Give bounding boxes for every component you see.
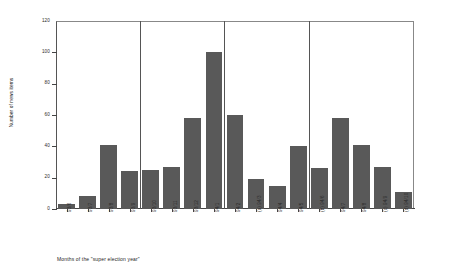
x-axis-tick-label: 94/5 — [300, 203, 305, 212]
x-axis-title: Months of the "super election year" — [57, 256, 140, 262]
y-axis-labels: 020406080100120 — [0, 0, 50, 220]
x-axis-tick-label: 93/10 — [153, 200, 158, 212]
x-axis-tick-label: (c) 94/9 — [384, 196, 389, 212]
y-axis-tick — [52, 209, 57, 210]
bars-container — [56, 21, 414, 209]
bar — [227, 115, 244, 209]
x-axis-tick-label: 93/7 — [89, 203, 94, 212]
x-axis-tick-label: 93/8 — [110, 203, 115, 212]
bar — [184, 118, 201, 209]
group-separator — [309, 21, 310, 209]
x-axis-tick-label: 94/8 — [363, 203, 368, 212]
x-axis-tick-label: 94/7 — [342, 203, 347, 212]
x-axis-tick-label: 93/9 — [132, 203, 137, 212]
y-axis-tick-label: 120 — [4, 19, 50, 24]
y-axis-tick — [52, 52, 57, 53]
y-axis-tick — [52, 146, 57, 147]
bar-chart-figure: 020406080100120 Number of news items Mon… — [0, 0, 466, 273]
y-axis-tick — [52, 84, 57, 85]
x-axis-tick-label: 93/11 — [174, 200, 179, 212]
x-axis-tick-label: (b) 94/6 — [321, 195, 326, 212]
x-axis-tick-label: (d) 94/10 — [405, 193, 410, 212]
bar — [332, 118, 349, 209]
y-axis-tick — [52, 178, 57, 179]
x-axis-tick-label: (a) 94/3 — [258, 195, 263, 212]
y-axis-tick-label: 20 — [4, 175, 50, 180]
bar — [353, 145, 370, 209]
x-axis-tick-label: 94/1 — [216, 203, 221, 212]
bar — [100, 145, 117, 209]
y-axis-title: Number of news items — [9, 48, 14, 158]
bar — [206, 52, 223, 209]
x-axis-tick-label: 94/2 — [237, 203, 242, 212]
group-separator — [224, 21, 225, 209]
x-axis-tick-label: 94/4 — [279, 203, 284, 212]
y-axis-tick — [52, 115, 57, 116]
x-axis-tick-label: 93/6 — [68, 203, 73, 212]
y-axis-tick-label: 0 — [4, 207, 50, 212]
x-axis-tick-label: 93/12 — [195, 200, 200, 212]
bar — [290, 146, 307, 209]
group-separator — [140, 21, 141, 209]
